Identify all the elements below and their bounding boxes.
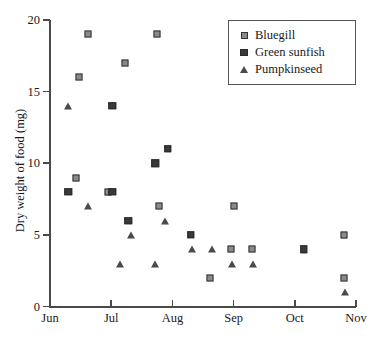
legend-label-bluegill: Bluegill xyxy=(252,29,295,42)
y-tick-label: 20 xyxy=(28,14,41,27)
y-tick-label: 0 xyxy=(34,300,40,313)
y-axis-title: Dry weight of food (mg) xyxy=(13,76,28,266)
data-point-pumpkinseed xyxy=(116,260,124,267)
data-point-bluegill xyxy=(121,59,128,66)
data-point-bluegill xyxy=(155,203,162,210)
data-point-green-sunfish xyxy=(65,188,73,196)
data-point-bluegill xyxy=(340,274,347,281)
x-tick-label: Nov xyxy=(345,312,367,325)
data-point-bluegill xyxy=(84,31,91,38)
legend-item-green-sunfish[interactable]: Green sunfish xyxy=(236,44,347,61)
data-point-pumpkinseed xyxy=(228,260,236,267)
data-point-pumpkinseed xyxy=(151,260,159,267)
x-tick-label: Jun xyxy=(41,312,58,325)
y-tick-mark xyxy=(43,234,50,236)
data-point-green-sunfish xyxy=(164,145,172,153)
y-tick-mark xyxy=(43,19,50,21)
scatter-plot-figure: Dry weight of food (mg) 05101520 JunJulA… xyxy=(0,0,371,346)
x-tick-label: Sep xyxy=(224,312,243,325)
legend-label-pumpkinseed: Pumpkinseed xyxy=(252,63,322,76)
y-tick-label: 10 xyxy=(28,157,41,170)
x-tick-mark xyxy=(233,300,235,307)
x-tick-mark xyxy=(294,300,296,307)
data-point-bluegill xyxy=(248,246,255,253)
data-point-pumpkinseed xyxy=(341,289,349,296)
legend-item-bluegill[interactable]: Bluegill xyxy=(236,27,347,44)
x-tick-mark xyxy=(172,300,174,307)
data-point-pumpkinseed xyxy=(188,246,196,253)
pumpkinseed-marker-icon xyxy=(236,66,252,73)
x-tick-mark xyxy=(49,300,51,307)
data-point-green-sunfish xyxy=(109,102,117,110)
x-tick-label: Jul xyxy=(104,312,119,325)
x-tick-label: Oct xyxy=(286,312,304,325)
data-point-bluegill xyxy=(72,174,79,181)
bluegill-marker-icon xyxy=(236,32,252,39)
legend: Bluegill Green sunfish Pumpkinseed xyxy=(228,20,356,85)
data-point-bluegill xyxy=(230,203,237,210)
green-sunfish-marker-icon xyxy=(236,49,252,57)
data-point-bluegill xyxy=(207,274,214,281)
legend-item-pumpkinseed[interactable]: Pumpkinseed xyxy=(236,61,347,78)
x-tick-mark xyxy=(110,300,112,307)
data-point-pumpkinseed xyxy=(208,246,216,253)
data-point-pumpkinseed xyxy=(64,102,72,109)
y-tick-label: 15 xyxy=(28,85,41,98)
data-point-green-sunfish xyxy=(300,245,308,253)
data-point-bluegill xyxy=(227,246,234,253)
data-point-green-sunfish xyxy=(109,188,117,196)
data-point-green-sunfish xyxy=(187,231,195,239)
data-point-pumpkinseed xyxy=(127,231,135,238)
x-tick-mark xyxy=(355,300,357,307)
y-tick-mark xyxy=(43,91,50,93)
x-axis-line xyxy=(50,306,356,308)
data-point-bluegill xyxy=(76,74,83,81)
legend-label-green-sunfish: Green sunfish xyxy=(252,46,325,59)
data-point-green-sunfish xyxy=(125,217,133,225)
x-tick-label: Aug xyxy=(162,312,184,325)
data-point-pumpkinseed xyxy=(84,203,92,210)
data-point-bluegill xyxy=(154,31,161,38)
data-point-pumpkinseed xyxy=(161,217,169,224)
data-point-green-sunfish xyxy=(152,160,160,168)
data-point-bluegill xyxy=(340,231,347,238)
y-tick-mark xyxy=(43,162,50,164)
data-point-pumpkinseed xyxy=(249,260,257,267)
y-tick-label: 5 xyxy=(34,229,40,242)
